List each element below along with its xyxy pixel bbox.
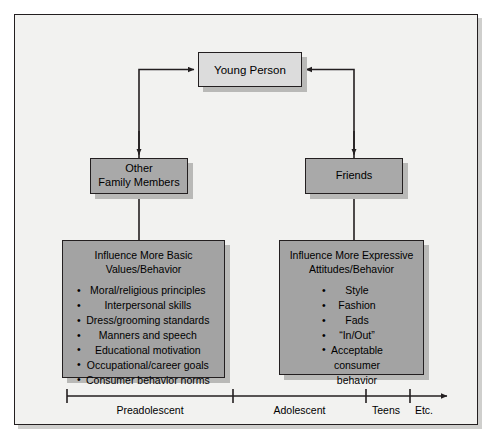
content-box-expressive-attitudes[interactable]: Influence More Expressive Attitudes/Beha… <box>279 240 424 375</box>
timeline-label-preadolescent: Preadolescent <box>67 404 233 416</box>
node-young-person[interactable]: Young Person <box>198 52 302 87</box>
right-box-heading-line1: Influence More Expressive <box>280 249 423 263</box>
list-item: Moral/religious principles <box>77 283 210 298</box>
left-box-heading: Influence More Basic Values/Behavior <box>63 249 224 276</box>
list-item: Style <box>322 283 383 298</box>
right-box-bullet-list: Style Fashion Fads “In/Out” Acceptable c… <box>280 283 383 387</box>
list-item: Fashion <box>322 298 383 313</box>
friends-label-line1: Friends <box>336 169 373 183</box>
node-other-family-members[interactable]: Other Family Members <box>90 158 188 194</box>
list-item: Acceptable consumer behavior <box>322 343 383 388</box>
right-box-heading: Influence More Expressive Attitudes/Beha… <box>280 249 423 276</box>
list-item-continuation: behavior <box>331 373 383 388</box>
other-family-label-line2: Family Members <box>98 176 179 190</box>
right-box-heading-line2: Attitudes/Behavior <box>280 263 423 277</box>
friends-label-wrap: Friends <box>336 169 373 183</box>
timeline-label-etc: Etc. <box>404 404 444 416</box>
list-item-text: Acceptable <box>331 344 383 356</box>
node-friends[interactable]: Friends <box>305 158 403 194</box>
list-item: Educational motivation <box>77 343 210 358</box>
list-item: Manners and speech <box>77 328 210 343</box>
left-box-bullet-list: Moral/religious principles Interpersonal… <box>63 283 210 387</box>
young-person-label: Young Person <box>214 64 286 76</box>
left-box-heading-line1: Influence More Basic <box>63 249 224 263</box>
other-family-label-line1: Other <box>98 162 179 176</box>
diagram-canvas: Young Person Other Family Members Friend… <box>0 0 489 441</box>
list-item: Dress/grooming standards <box>77 313 210 328</box>
content-box-basic-values[interactable]: Influence More Basic Values/Behavior Mor… <box>62 240 225 378</box>
list-item: Consumer behavior norms <box>77 373 210 388</box>
list-item: Interpersonal skills <box>77 298 210 313</box>
other-family-label-wrap: Other Family Members <box>98 162 179 190</box>
list-item: Occupational/career goals <box>77 358 210 373</box>
list-item-continuation: consumer <box>331 358 383 373</box>
list-item: Fads <box>322 313 383 328</box>
timeline-label-adolescent: Adolescent <box>233 404 366 416</box>
list-item: “In/Out” <box>322 328 383 343</box>
left-box-heading-line2: Values/Behavior <box>63 263 224 277</box>
